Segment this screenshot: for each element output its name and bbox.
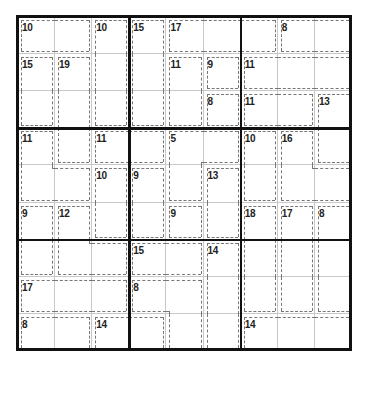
cage-border [349,317,350,348]
cage-border [95,348,129,349]
cage-border [318,128,319,162]
cage-border [278,125,312,126]
cage-sum: 18 [245,209,256,219]
cage-border [169,91,170,125]
cell-r3c4[interactable] [129,91,166,128]
cell-r6c4[interactable] [129,203,166,240]
cell-r7c3[interactable] [92,240,129,277]
cage-border [52,57,53,91]
cell-r5c7[interactable] [241,165,278,202]
cell-r2c9[interactable] [315,54,352,91]
cage-sum: 9 [133,171,138,181]
cell-r8c9[interactable] [315,277,352,314]
cell-r6c6[interactable] [204,203,241,240]
cage-sum: 9 [208,60,213,70]
cage-border [281,131,312,132]
cage-border [207,277,208,314]
cell-r5c5[interactable] [166,165,203,202]
cage-border [95,203,96,237]
cell-r8c3[interactable] [92,277,129,314]
cage-border [169,200,200,201]
cell-r8c5[interactable] [166,277,203,314]
cell-r2c4[interactable] [129,54,166,91]
cell-r5c8[interactable] [278,165,315,202]
cage-border [278,94,312,95]
cage-sum: 19 [59,60,70,70]
cage-border [169,125,200,126]
cage-border [312,206,313,240]
cage-border [55,280,92,281]
cage-border [89,91,90,128]
cell-r9c4[interactable] [129,314,166,351]
cell-r5c9[interactable] [315,165,352,202]
cage-sum: 15 [133,246,144,256]
cell-r2c3[interactable] [92,54,129,91]
cell-r7c9[interactable] [315,240,352,277]
cell-r3c5[interactable] [166,91,203,128]
cage-border [238,57,239,88]
cell-r3c8[interactable] [278,91,315,128]
cage-border [281,200,315,201]
cell-r7c5[interactable] [166,240,203,277]
cage-border [169,20,203,21]
cage-border [126,54,127,91]
cage-border [92,280,126,281]
cage-border [132,91,133,125]
cage-sum: 11 [245,60,255,70]
cell-r7c8[interactable] [278,240,315,277]
cage-border [58,240,59,274]
cell-r1c2[interactable] [55,17,92,54]
cage-border [58,274,92,275]
cell-r9c2[interactable] [55,314,92,351]
cage-border [52,91,53,125]
cell-r8c8[interactable] [278,277,315,314]
cell-r8c6[interactable] [204,277,241,314]
cell-r4c2[interactable] [55,128,92,165]
cell-r4c4[interactable] [129,128,166,165]
cell-r5c2[interactable] [55,165,92,202]
cell-r1c6[interactable] [204,17,241,54]
cage-border [21,311,55,312]
cell-r7c7[interactable] [241,240,278,277]
cage-sum: 13 [319,97,330,107]
cage-border [312,240,313,277]
cell-r3c3[interactable] [92,91,129,128]
cell-r5c1[interactable] [18,165,55,202]
cell-r8c7[interactable] [241,277,278,314]
cage-sum: 8 [282,23,287,33]
cell-r8c2[interactable] [55,277,92,314]
cell-r1c9[interactable] [315,17,352,54]
cage-border [315,88,349,89]
cage-border [95,131,129,132]
cell-r7c2[interactable] [55,240,92,277]
cell-r3c2[interactable] [55,91,92,128]
cage-border [318,162,349,163]
cell-r9c5[interactable] [166,314,203,351]
cage-border [169,314,170,348]
cell-r1c7[interactable] [241,17,278,54]
cell-r3c1[interactable] [18,91,55,128]
cell-r6c3[interactable] [92,203,129,240]
box-divider-vertical [240,17,243,351]
cage-border [241,51,275,52]
cell-r7c1[interactable] [18,240,55,277]
cage-border [207,94,238,95]
cell-r9c9[interactable] [315,314,352,351]
cage-border [169,165,170,199]
cage-border [89,57,90,91]
cage-border [166,274,200,275]
cage-border [21,125,52,126]
cage-border [278,317,315,318]
cell-r2c8[interactable] [278,54,315,91]
cell-r4c9[interactable] [315,128,352,165]
cage-border [244,348,278,349]
cage-border [95,237,126,238]
cage-border [244,200,275,201]
cell-r4c6[interactable] [204,128,241,165]
cage-border [21,317,55,318]
cage-border [312,94,313,125]
cell-r9c6[interactable] [204,314,241,351]
cell-r9c8[interactable] [278,314,315,351]
cage-border [281,277,282,311]
cage-border [163,203,164,237]
